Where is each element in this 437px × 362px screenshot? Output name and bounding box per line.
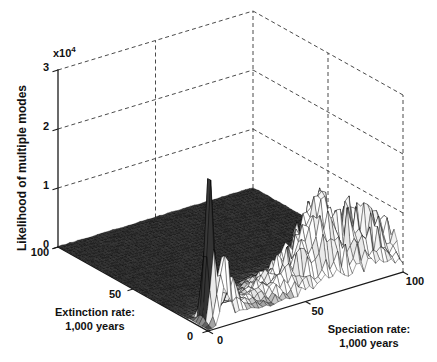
z-tick-label-1: 1	[43, 179, 49, 191]
z-multiplier-exponent: 4	[71, 45, 75, 54]
y-axis-title-line2: 1,000 years	[55, 319, 135, 333]
x-tick-label-100: 100	[406, 275, 424, 287]
z-tick-label-2: 2	[43, 120, 49, 132]
y-tick-label-50: 50	[109, 288, 121, 300]
z-multiplier-base: x10	[53, 47, 71, 59]
x-axis-title-line2: 1,000 years	[328, 336, 411, 350]
z-axis-title: Likelihood of multiple modes	[15, 85, 29, 251]
x-axis-title-line1: Speciation rate:	[328, 322, 411, 336]
y-axis-title: Extinction rate: 1,000 years	[55, 305, 135, 333]
z-tick-label-3: 3	[43, 61, 49, 73]
y-axis-title-line1: Extinction rate:	[55, 305, 135, 319]
x-axis-title: Speciation rate: 1,000 years	[328, 322, 411, 350]
x-tick-label-50: 50	[311, 305, 323, 317]
y-tick-label-0: 0	[187, 330, 193, 342]
z-axis-multiplier: x104	[53, 45, 76, 59]
3d-surface-figure: x104 Likelihood of multiple modes Extinc…	[0, 0, 437, 362]
y-tick-label-100: 100	[31, 246, 49, 258]
x-tick-label-0: 0	[217, 334, 223, 346]
